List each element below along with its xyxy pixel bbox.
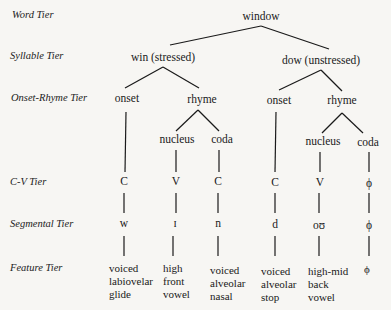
feature-line: voiced	[210, 264, 245, 277]
feature-line: back	[308, 278, 348, 291]
segment-n: n	[215, 217, 221, 229]
nucleus-node-1: nucleus	[159, 133, 194, 145]
cv-node-4: C	[271, 176, 279, 188]
feature-n: voiced alveolar nasal	[210, 264, 245, 303]
word-node: window	[242, 10, 279, 22]
tree-edges	[0, 0, 391, 310]
feature-ou: high-mid back vowel	[308, 265, 348, 304]
feature-line: nasal	[210, 290, 245, 303]
rhyme-node-2: rhyme	[327, 94, 356, 106]
feature-line: voiced	[109, 262, 153, 275]
onset-node-2: onset	[267, 94, 291, 106]
segment-ih: ɪ	[173, 217, 176, 229]
feature-line: stop	[261, 291, 296, 304]
feature-line: vowel	[163, 288, 190, 301]
cv-node-5: V	[316, 176, 324, 188]
feature-line: ϕ	[364, 263, 370, 276]
feature-line: high-mid	[308, 265, 348, 278]
coda-node-1: coda	[211, 133, 233, 145]
segment-phi: ϕ	[366, 219, 372, 231]
cv-node-1: C	[120, 175, 128, 187]
feature-line: voiced	[261, 265, 296, 278]
feature-line: alveolar	[261, 278, 296, 291]
feature-line: alveolar	[210, 277, 245, 290]
syllable-node-dow: dow (unstressed)	[282, 54, 360, 66]
feature-line: high	[163, 262, 190, 275]
feature-d: voiced alveolar stop	[261, 265, 296, 304]
cv-node-3: C	[214, 175, 222, 187]
feature-line: vowel	[308, 291, 348, 304]
syllable-node-win: win (stressed)	[131, 51, 195, 63]
cv-node-6: ϕ	[366, 177, 372, 189]
onset-node-1: onset	[115, 92, 139, 104]
coda-node-2: coda	[357, 136, 379, 148]
rhyme-node-1: rhyme	[187, 93, 216, 105]
feature-line: labiovelar	[109, 275, 153, 288]
segment-w: w	[120, 217, 128, 229]
feature-ih: high front vowel	[163, 262, 190, 301]
segment-ou: oʊ	[313, 219, 325, 231]
feature-w: voiced labiovelar glide	[109, 262, 153, 301]
segment-d: d	[272, 218, 278, 230]
cv-node-2: V	[172, 175, 180, 187]
feature-line: glide	[109, 288, 153, 301]
nucleus-node-2: nucleus	[305, 135, 340, 147]
feature-line: front	[163, 275, 190, 288]
feature-phi: ϕ	[364, 263, 370, 276]
